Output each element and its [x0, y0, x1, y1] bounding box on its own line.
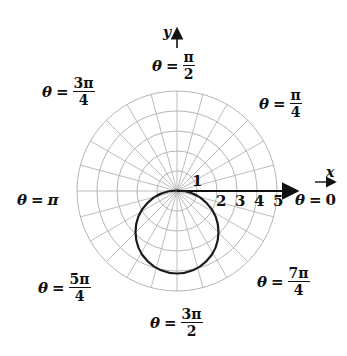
angle-label-pi-over-2: θ = π 2 — [152, 50, 195, 81]
angle-label-3pi-over-2: θ = 3π 2 — [150, 307, 203, 338]
grid-radial-line — [177, 120, 248, 191]
grid-radial-line — [177, 141, 264, 191]
grid-radial-line — [106, 120, 177, 191]
y-axis-label: y — [163, 24, 171, 40]
fraction: 3π 4 — [73, 76, 95, 107]
grid-radial-line — [127, 104, 177, 191]
tick-2: 2 — [216, 192, 226, 210]
fraction: 5π 4 — [69, 272, 91, 303]
angle-label-3pi-over-4: θ = 3π 4 — [42, 76, 95, 107]
grid-radial-line — [90, 141, 177, 191]
tick-5: 5 — [273, 192, 283, 210]
x-axis-label: x — [326, 164, 334, 180]
angle-label-pi: θ = π — [17, 191, 59, 209]
tick-4: 4 — [254, 192, 264, 210]
grid-radial-line — [151, 94, 177, 191]
angle-label-7pi-over-4: θ = 7π 4 — [257, 266, 310, 297]
grid-radial-line — [80, 165, 177, 191]
grid-radial-line — [90, 191, 177, 241]
grid-radial-line — [106, 191, 177, 262]
grid-radial-line — [80, 191, 177, 217]
fraction: 7π 4 — [288, 266, 310, 297]
tick-3: 3 — [235, 192, 245, 210]
polar-graph: y x 1 2 3 4 5 θ = π 2 θ = 3π 4 θ = π 4 θ… — [0, 0, 347, 356]
fraction: 3π 2 — [181, 307, 203, 338]
fraction: π 2 — [183, 50, 195, 81]
angle-label-0: θ = 0 — [295, 191, 336, 209]
angle-label-5pi-over-4: θ = 5π 4 — [38, 272, 91, 303]
tick-1: 1 — [192, 172, 202, 190]
theta-symbol: θ — [152, 57, 162, 75]
fraction: π 4 — [290, 88, 302, 119]
angle-label-pi-over-4: θ = π 4 — [259, 88, 302, 119]
